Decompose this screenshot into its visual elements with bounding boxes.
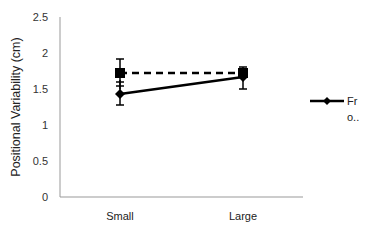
legend: Fr o.. bbox=[310, 95, 359, 123]
square-marker-small bbox=[115, 68, 125, 78]
y-tick-0: 0 bbox=[42, 191, 48, 203]
legend-label-line1: Fr bbox=[347, 95, 358, 107]
x-category-small: Small bbox=[106, 210, 134, 222]
legend-label-line2: o.. bbox=[347, 111, 359, 123]
y-axis-title: Positional Variability (cm) bbox=[9, 37, 23, 176]
y-tick-1.5: 1.5 bbox=[33, 83, 48, 95]
legend-diamond-icon bbox=[323, 97, 331, 105]
series-solid-diamonds bbox=[115, 72, 248, 105]
y-tick-2: 2 bbox=[42, 47, 48, 59]
y-tick-1: 1 bbox=[42, 119, 48, 131]
diamond-marker-small bbox=[115, 89, 125, 99]
line-chart: Positional Variability (cm) 0 0.5 1 1.5 … bbox=[0, 0, 366, 232]
x-category-large: Large bbox=[229, 210, 257, 222]
y-tick-2.5: 2.5 bbox=[33, 11, 48, 23]
y-tick-0.5: 0.5 bbox=[33, 155, 48, 167]
